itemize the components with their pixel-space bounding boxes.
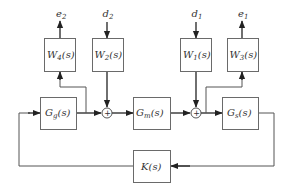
- summing-junction-1: +: [102, 108, 112, 118]
- summing-junction-2: +: [191, 108, 201, 118]
- block-w3: W3(s): [228, 39, 259, 72]
- signal-e2-label: e2: [56, 8, 67, 21]
- block-diagram: W4(s) W2(s) W1(s) W3(s) Gg(s) Gm(s) Gs(s…: [0, 0, 289, 193]
- signal-d1-label: d1: [192, 8, 203, 21]
- signal-e1-label: e1: [238, 8, 248, 21]
- block-gs: Gs(s): [223, 98, 259, 130]
- svg-text:+: +: [104, 109, 111, 118]
- svg-text:K(s): K(s): [140, 161, 162, 172]
- signal-d2-label: d2: [103, 8, 114, 21]
- svg-text:+: +: [193, 109, 200, 118]
- block-w1: W1(s): [181, 39, 212, 72]
- block-gm: Gm(s): [134, 98, 171, 130]
- block-k: K(s): [134, 151, 171, 183]
- block-w2: W2(s): [93, 39, 124, 72]
- block-w4: W4(s): [45, 39, 76, 72]
- block-gg: Gg(s): [41, 98, 77, 130]
